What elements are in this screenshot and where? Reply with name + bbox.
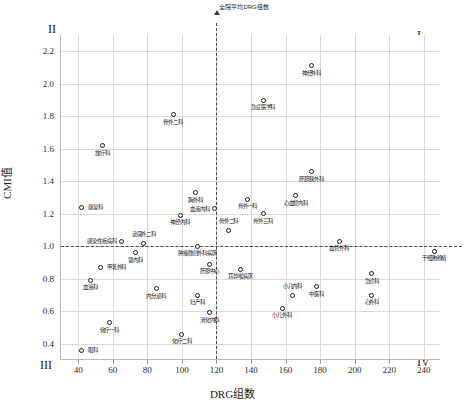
- data-point[interactable]: [290, 293, 295, 298]
- data-point[interactable]: [280, 306, 285, 311]
- gridline-horizontal: [61, 149, 440, 150]
- data-point-label: 甲乳外科: [107, 264, 127, 270]
- x-tick-mark: [251, 360, 252, 364]
- data-point-label: 小儿内科: [283, 283, 303, 289]
- data-point[interactable]: [309, 169, 314, 174]
- x-tick-label: 80: [143, 365, 152, 375]
- x-tick-mark: [182, 360, 183, 364]
- data-point[interactable]: [226, 228, 231, 233]
- data-point[interactable]: [369, 271, 374, 276]
- data-point-label: 内分泌科: [146, 293, 166, 299]
- data-point[interactable]: [100, 143, 105, 148]
- data-point[interactable]: [107, 320, 112, 325]
- data-point[interactable]: [207, 262, 212, 267]
- data-point-label: 急症医学科: [251, 104, 276, 110]
- plot-area: 全院平均DRG组数 全院平均CMI值 神经外科急症医学科骨外二科放疗科肝胆胰外科…: [60, 35, 440, 360]
- data-point-label: 中医科: [309, 291, 324, 297]
- gridline-horizontal: [61, 214, 440, 215]
- x-tick-label: 220: [382, 365, 396, 375]
- data-point[interactable]: [309, 63, 314, 68]
- data-point-label: 神经外科: [302, 70, 322, 76]
- x-tick-mark: [320, 360, 321, 364]
- data-point[interactable]: [238, 267, 243, 272]
- gridline-horizontal: [61, 116, 440, 117]
- data-point-label: 化疗二科: [172, 338, 192, 344]
- data-point[interactable]: [171, 112, 176, 117]
- data-point-label: 骨外二科: [219, 218, 239, 224]
- x-tick-mark: [147, 360, 148, 364]
- x-tick-label: 140: [244, 365, 258, 375]
- y-tick-label: 1.6: [43, 144, 54, 154]
- x-tick-label: 200: [348, 365, 362, 375]
- y-tick-label: 0.6: [43, 306, 54, 316]
- reference-line-avg-drg: 全院平均DRG组数: [216, 23, 217, 359]
- data-point[interactable]: [154, 286, 159, 291]
- data-point-label: 急诊科: [365, 278, 380, 284]
- data-point[interactable]: [261, 98, 266, 103]
- gridline-horizontal: [61, 51, 440, 52]
- gridline-horizontal: [61, 344, 440, 345]
- y-tick-label: 0.4: [43, 339, 54, 349]
- data-point-label: 神经内科: [170, 219, 190, 225]
- data-point[interactable]: [195, 293, 200, 298]
- x-axis-title: DRG组数: [0, 385, 465, 401]
- gridline-horizontal: [61, 181, 440, 182]
- data-point[interactable]: [207, 310, 212, 315]
- data-point-label: 化疗一科: [100, 327, 120, 333]
- x-tick-label: 120: [210, 365, 224, 375]
- data-point[interactable]: [337, 239, 342, 244]
- x-tick-mark: [113, 360, 114, 364]
- data-point[interactable]: [141, 241, 146, 246]
- data-point-label: 康复科: [88, 204, 103, 210]
- data-point-label: 肝胆中心: [200, 268, 220, 274]
- x-tick-mark: [78, 360, 79, 364]
- data-point[interactable]: [88, 278, 93, 283]
- x-tick-mark: [286, 360, 287, 364]
- data-point-label: 妇产科: [190, 299, 205, 305]
- data-point[interactable]: [193, 190, 198, 195]
- data-point[interactable]: [98, 265, 103, 270]
- y-tick-label: 1.4: [43, 176, 54, 186]
- x-tick-label: 40: [74, 365, 83, 375]
- gridline-horizontal: [61, 84, 440, 85]
- y-tick-label: 2.0: [43, 79, 54, 89]
- data-point-label: 血液内科: [190, 206, 210, 212]
- data-point[interactable]: [314, 284, 319, 289]
- data-point[interactable]: [293, 193, 298, 198]
- data-point-label: 小儿外科: [272, 312, 292, 318]
- data-point[interactable]: [245, 197, 250, 202]
- data-point[interactable]: [79, 348, 84, 353]
- data-point-label: 心血管内科: [284, 200, 309, 206]
- x-tick-label: 180: [313, 365, 327, 375]
- scatter-chart-root: CMI值 II I III IV 全院平均DRG组数 全院平均CMI值 神经外科…: [0, 0, 465, 420]
- data-point-label: 胸外科: [188, 197, 203, 203]
- x-tick-label: 100: [175, 365, 189, 375]
- data-point[interactable]: [178, 213, 183, 218]
- y-tick-label: 0.8: [43, 274, 54, 284]
- data-point-label: 肿瘤微创外科病区: [178, 250, 217, 256]
- quadrant-label-3: III: [40, 358, 52, 373]
- y-tick-label: 1.0: [43, 241, 54, 251]
- data-point-label: 骨外二科: [163, 119, 183, 125]
- data-point[interactable]: [179, 332, 184, 337]
- data-point-label: 眼科: [88, 347, 98, 353]
- data-point-label: 血管外科: [329, 245, 349, 251]
- data-point[interactable]: [261, 211, 266, 216]
- data-point-label: 肾内科: [128, 257, 143, 263]
- data-point[interactable]: [119, 239, 124, 244]
- data-point-label: 放疗科: [95, 150, 110, 156]
- reference-line-avg-cmi: 全院平均CMI值: [61, 246, 462, 247]
- data-point-label: 感染性疾病科: [87, 238, 116, 244]
- data-point-label: 消化内科: [200, 317, 220, 323]
- x-tick-mark: [424, 360, 425, 364]
- data-point[interactable]: [79, 205, 84, 210]
- data-point[interactable]: [195, 244, 200, 249]
- data-point-label: 心外科: [365, 299, 380, 305]
- data-point-label: 泌尿外二科: [132, 231, 157, 237]
- x-tick-mark: [216, 360, 217, 364]
- x-tick-label: 240: [417, 365, 431, 375]
- data-point[interactable]: [369, 293, 374, 298]
- y-tick-label: 2.2: [43, 46, 54, 56]
- data-point[interactable]: [432, 249, 437, 254]
- data-point[interactable]: [133, 250, 138, 255]
